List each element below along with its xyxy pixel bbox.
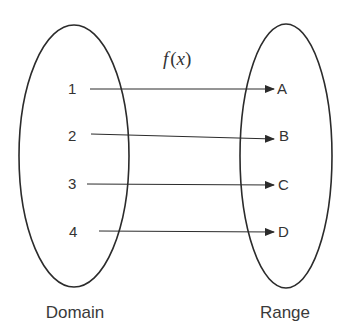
- range-element-B: B: [279, 127, 289, 144]
- domain-element-2: 2: [68, 127, 76, 144]
- mapping-arrow-3-C: [87, 184, 274, 185]
- range-element-A: A: [277, 80, 287, 97]
- function-mapping-diagram: f(x) 1 2 3 4 A B C D Domain Range: [0, 0, 340, 332]
- range-element-D: D: [278, 223, 289, 240]
- domain-element-1: 1: [68, 80, 76, 97]
- range-label: Range: [260, 303, 310, 322]
- function-label: f(x): [163, 48, 191, 70]
- range-ellipse: [240, 24, 332, 288]
- range-element-C: C: [278, 176, 289, 193]
- domain-ellipse: [19, 25, 129, 287]
- mapping-arrow-2-B: [91, 134, 274, 139]
- domain-element-4: 4: [69, 223, 77, 240]
- domain-element-3: 3: [68, 175, 76, 192]
- domain-label: Domain: [46, 303, 105, 322]
